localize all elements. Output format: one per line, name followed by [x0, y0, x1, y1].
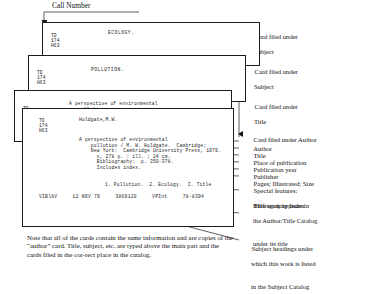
annotation-line-2: Subject [248, 83, 298, 91]
figure-note: Note that all of the cards contain the s… [27, 234, 235, 259]
call-number-author: TD 174 H63 [39, 118, 48, 134]
call-number-ecology: TD 174 H63 [51, 33, 60, 49]
annotation-line-1: Card filed under [255, 103, 298, 110]
annotation-line-2: Title [248, 118, 298, 126]
bibliographic-body: A perspective of environmental pollution… [79, 137, 221, 171]
card-heading-ecology: ECOLOGY. [108, 30, 134, 35]
field-label-line-2: the Author/Title Catalog [247, 217, 317, 225]
annotation-line-1: Card filed under [255, 68, 298, 75]
card-heading-pollution: POLLUTION. [91, 67, 124, 72]
field-label-subject-headings: Subject headings under which this work i… [245, 237, 315, 294]
annotation-line-1: Card filed under [255, 33, 298, 40]
field-label-line-1: Special features: [254, 187, 298, 194]
field-label-line-1: Subject headings under [252, 245, 314, 252]
subject-tracings: 1. Pollution. 2. Ecology. I. Title [105, 182, 211, 188]
author-heading: Holdgate,M.W. [79, 117, 117, 123]
triangle-solid-icon [238, 131, 243, 137]
field-label-line-2: which this work is listed [245, 260, 315, 268]
catalog-card-diagram: Call Number [0, 0, 366, 294]
field-label-line-1: This work appears in [253, 202, 308, 209]
call-number-pollution: TD 174 H63 [37, 70, 46, 86]
card-footer-line: VIBlbV 12 NOV 79 3869120 VPInt 78-8394 [39, 194, 204, 200]
field-label-line-3: in the Subject Catalog [245, 283, 315, 291]
catalog-card-author[interactable]: TD 174 H63 Holdgate,M.W. A perspective o… [22, 108, 234, 227]
